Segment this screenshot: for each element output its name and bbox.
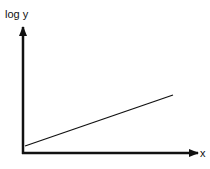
linear-trend-line bbox=[25, 95, 173, 146]
x-axis-label: x bbox=[200, 147, 206, 159]
y-axis-label: log y bbox=[5, 8, 29, 20]
log-y-vs-x-diagram: log y x bbox=[0, 0, 210, 169]
